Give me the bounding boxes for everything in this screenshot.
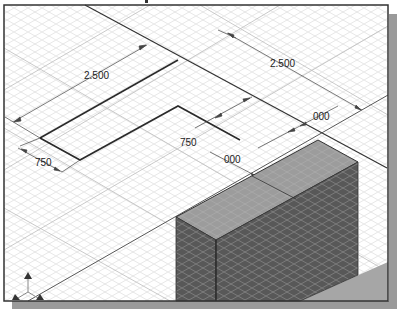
dimension-label: 000 xyxy=(313,111,330,122)
viewport-shadow-right xyxy=(389,14,397,306)
dimension-label: 750 xyxy=(35,157,52,168)
viewport-shadow-bottom xyxy=(12,301,397,309)
dimension-label: 000 xyxy=(224,154,241,165)
dimension-label: 2.500 xyxy=(270,58,295,69)
cad-graphics-viewport[interactable]: 2.500 2.500 750 750 xyxy=(0,0,401,309)
coordinate-axes-triad-icon xyxy=(10,272,46,302)
clipped-title-fragment xyxy=(145,0,148,3)
dimension-label: 750 xyxy=(180,137,197,148)
dimension-label: 2.500 xyxy=(84,70,109,81)
